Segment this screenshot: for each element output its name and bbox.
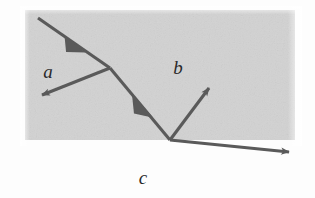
slab-edge-fade-y: [20, 6, 302, 146]
medium-slab-region: [20, 6, 302, 146]
medium-label-b: b: [173, 57, 183, 78]
optics-ray-diagram-canvas: a b c: [0, 0, 315, 198]
ray-diagram-figure: a b c: [0, 0, 315, 198]
medium-label-a: a: [43, 61, 53, 82]
medium-label-c: c: [139, 167, 148, 188]
